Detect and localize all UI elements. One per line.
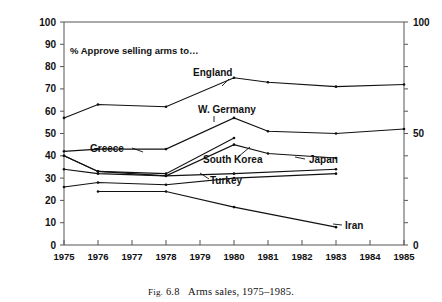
series-label-iran: Iran [345, 220, 363, 231]
y-tick-right-50: 50 [413, 128, 425, 139]
series-label-w-germany: W. Germany [198, 104, 256, 115]
series-label-turkey: Turkey [210, 175, 242, 186]
figure-caption: Fig. 6.8 Arms sales, 1975–1985. [0, 286, 442, 297]
y-tick-left-100: 100 [39, 17, 56, 28]
x-tick-1976: 1976 [87, 251, 108, 262]
y-tick-right-100: 100 [413, 17, 430, 28]
x-tick-1985: 1985 [393, 251, 415, 262]
y-tick-right-0: 0 [413, 240, 419, 251]
y-tick-left-40: 40 [45, 150, 57, 161]
data-point [335, 85, 338, 88]
y-axis-right-ticks: 050100 [404, 17, 430, 251]
y-tick-left-70: 70 [45, 83, 57, 94]
x-axis-ticks: 1975197619771978197919801981198219831984… [53, 240, 415, 262]
data-point [97, 181, 100, 184]
data-point [97, 172, 100, 175]
data-point [403, 128, 406, 131]
series-label-japan: Japan [309, 154, 338, 165]
data-point [97, 103, 100, 106]
y-tick-left-90: 90 [45, 39, 57, 50]
y-tick-left-60: 60 [45, 106, 57, 117]
x-tick-1983: 1983 [325, 251, 346, 262]
data-point [165, 172, 168, 175]
leader-japan [295, 157, 305, 159]
data-point [63, 150, 66, 153]
data-point [165, 183, 168, 186]
x-tick-1980: 1980 [223, 251, 244, 262]
series-line-turkey [64, 169, 336, 176]
x-tick-1981: 1981 [257, 251, 279, 262]
data-point [63, 155, 66, 158]
data-point [63, 168, 66, 171]
data-point [335, 172, 338, 175]
data-point [233, 117, 236, 120]
data-point [97, 170, 100, 173]
y-tick-left-50: 50 [45, 128, 57, 139]
x-tick-1978: 1978 [155, 251, 176, 262]
leader-iran [333, 224, 342, 225]
y-tick-left-0: 0 [50, 240, 56, 251]
data-point [335, 226, 338, 229]
data-point [233, 137, 236, 140]
line-chart: 0102030405060708090100 050100 1975197619… [0, 0, 442, 302]
x-tick-1977: 1977 [121, 251, 142, 262]
figure-container: 0102030405060708090100 050100 1975197619… [0, 0, 442, 302]
data-point [233, 206, 236, 209]
y-tick-left-10: 10 [45, 217, 57, 228]
data-point [335, 132, 338, 135]
y-tick-left-20: 20 [45, 195, 57, 206]
caption-prefix: Fig. [148, 287, 163, 297]
series-label-england: England [193, 67, 232, 78]
leader-turkey [200, 173, 209, 179]
approve-note-label: % Approve selling arms to… [70, 45, 198, 56]
series-line-greece [64, 174, 336, 187]
data-point [267, 130, 270, 133]
data-point [97, 190, 100, 193]
data-point [233, 76, 236, 79]
series-line-iran [98, 191, 336, 227]
data-point [63, 186, 66, 189]
data-point [267, 81, 270, 84]
data-point [233, 143, 236, 146]
x-tick-1984: 1984 [359, 251, 381, 262]
x-tick-1982: 1982 [291, 251, 312, 262]
y-axis-left-ticks: 0102030405060708090100 [39, 17, 64, 251]
data-point [165, 105, 168, 108]
data-point [165, 175, 168, 178]
data-point [335, 168, 338, 171]
data-point [403, 83, 406, 86]
data-point [267, 152, 270, 155]
data-point [63, 117, 66, 120]
y-tick-left-80: 80 [45, 61, 57, 72]
y-tick-left-30: 30 [45, 173, 57, 184]
x-tick-1975: 1975 [53, 251, 75, 262]
series-label-south-korea: South Korea [203, 154, 263, 165]
caption-text: Arms sales, 1975–1985. [188, 286, 294, 297]
x-tick-1979: 1979 [189, 251, 210, 262]
data-point [165, 148, 168, 151]
caption-number: 6.8 [166, 286, 180, 297]
series-label-greece: Greece [90, 143, 124, 154]
data-point [165, 190, 168, 193]
